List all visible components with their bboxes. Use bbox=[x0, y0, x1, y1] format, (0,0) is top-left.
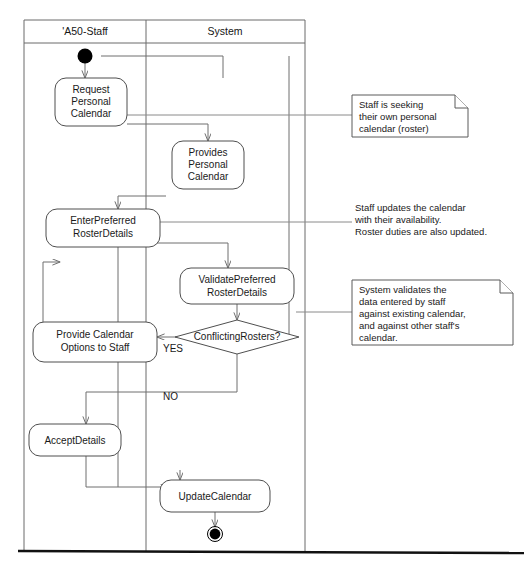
activity-label-line: ValidatePreferred bbox=[198, 274, 275, 285]
decision-conflicting-rosters[interactable]: ConflictingRosters? bbox=[175, 320, 299, 354]
edge-no-to-accept-details bbox=[86, 354, 237, 424]
edge-rail-top bbox=[101, 56, 223, 78]
swimlane-header-system: System bbox=[207, 25, 242, 37]
note-staff-updates-calendar: Staff updates the calendar with their av… bbox=[354, 202, 487, 237]
activity-validate-preferred-roster-details[interactable]: ValidatePreferred RosterDetails bbox=[180, 268, 294, 304]
activity-label-line: Calendar bbox=[188, 171, 229, 182]
edge-provides-to-enter bbox=[118, 196, 166, 209]
note-line: Staff is seeking bbox=[359, 99, 423, 110]
diagram-svg: 'A50-Staff System bbox=[0, 0, 528, 569]
swimlane-header-staff: 'A50-Staff bbox=[62, 25, 108, 37]
bottom-rule bbox=[18, 551, 524, 553]
activity-label-line: RosterDetails bbox=[73, 228, 133, 239]
edge-request-to-provides bbox=[127, 124, 208, 141]
final-node bbox=[208, 527, 223, 542]
activity-label-line: Calendar bbox=[71, 108, 112, 119]
activity-label-line: Provides bbox=[189, 147, 228, 158]
note-line: and against other staff's bbox=[359, 320, 460, 331]
initial-node bbox=[78, 49, 93, 64]
activity-label-line: Personal bbox=[71, 96, 110, 107]
edge-label-yes: YES bbox=[163, 343, 183, 354]
activity-label-line: Provide Calendar bbox=[56, 329, 134, 340]
note-line: Roster duties are also updated. bbox=[355, 226, 487, 237]
activity-label-line: Request bbox=[72, 84, 109, 95]
activity-update-calendar[interactable]: UpdateCalendar bbox=[160, 480, 270, 512]
activity-label-line: Personal bbox=[188, 159, 227, 170]
note-line: System validates the bbox=[359, 284, 447, 295]
note-line: with their availability. bbox=[354, 214, 441, 225]
decision-label: ConflictingRosters? bbox=[194, 331, 281, 342]
edge-accept-to-update bbox=[86, 456, 168, 487]
note-system-validates: System validates the data entered by sta… bbox=[352, 280, 513, 345]
activity-request-personal-calendar[interactable]: Request Personal Calendar bbox=[55, 78, 127, 126]
note-line: against existing calendar, bbox=[359, 308, 466, 319]
edge-label-no: NO bbox=[163, 391, 178, 402]
activity-accept-details[interactable]: AcceptDetails bbox=[29, 424, 121, 456]
activity-provides-personal-calendar[interactable]: Provides Personal Calendar bbox=[172, 141, 244, 189]
note-line: Staff updates the calendar bbox=[355, 202, 466, 213]
note-line: calendar (roster) bbox=[359, 123, 429, 134]
activity-label-line: EnterPreferred bbox=[70, 215, 136, 226]
note-line: their own personal bbox=[359, 111, 437, 122]
activity-label-line: RosterDetails bbox=[207, 287, 267, 298]
note-staff-is-seeking: Staff is seeking their own personal cale… bbox=[352, 95, 468, 137]
activity-diagram-canvas: 'A50-Staff System bbox=[0, 0, 528, 569]
note-line: data entered by staff bbox=[359, 296, 446, 307]
activity-enter-preferred-roster-details[interactable]: EnterPreferred RosterDetails bbox=[46, 209, 160, 247]
activity-label: AcceptDetails bbox=[44, 435, 105, 446]
activity-label: UpdateCalendar bbox=[179, 491, 252, 502]
activity-provide-calendar-options[interactable]: Provide Calendar Options to Staff bbox=[33, 322, 157, 362]
activity-label-line: Options to Staff bbox=[61, 342, 130, 353]
note-line: calendar. bbox=[359, 332, 398, 343]
